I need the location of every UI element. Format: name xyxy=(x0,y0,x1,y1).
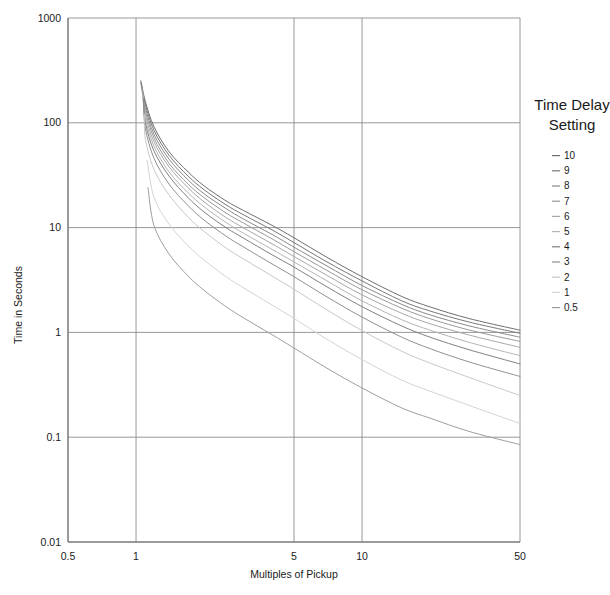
x-axis-title: Multiples of Pickup xyxy=(250,568,338,580)
legend-label-9: 9 xyxy=(564,165,570,176)
legend-label-1: 1 xyxy=(564,287,570,298)
chart-canvas: 0.5151050 0.010.11101001000 Time DelaySe… xyxy=(0,0,610,595)
legend-label-5: 5 xyxy=(564,226,570,237)
x-tick-label: 5 xyxy=(291,550,297,562)
y-tick-label: 10 xyxy=(49,221,61,233)
x-tick-label: 50 xyxy=(514,550,526,562)
x-tick-label: 0.5 xyxy=(61,550,76,562)
legend-label-3: 3 xyxy=(564,256,570,267)
y-tick-label: 0.01 xyxy=(41,536,62,548)
x-tick-label: 10 xyxy=(356,550,368,562)
legend-label-8: 8 xyxy=(564,180,570,191)
legend-title-line2: Setting xyxy=(549,116,596,133)
legend-label-0.5: 0.5 xyxy=(564,302,578,313)
legend-label-2: 2 xyxy=(564,272,570,283)
legend-label-10: 10 xyxy=(564,150,576,161)
y-tick-label: 100 xyxy=(43,116,61,128)
legend-label-6: 6 xyxy=(564,211,570,222)
y-axis-title: Time in Seconds xyxy=(12,266,24,344)
x-tick-label: 1 xyxy=(133,550,139,562)
time-current-curve-chart: 0.5151050 0.010.11101001000 Time DelaySe… xyxy=(0,0,610,595)
y-tick-label: 1 xyxy=(55,326,61,338)
y-tick-label: 0.1 xyxy=(46,431,61,443)
legend-label-4: 4 xyxy=(564,241,570,252)
y-tick-label: 1000 xyxy=(38,12,62,24)
legend-label-7: 7 xyxy=(564,196,570,207)
chart-background xyxy=(0,0,610,595)
legend-title-line1: Time Delay xyxy=(534,96,610,113)
